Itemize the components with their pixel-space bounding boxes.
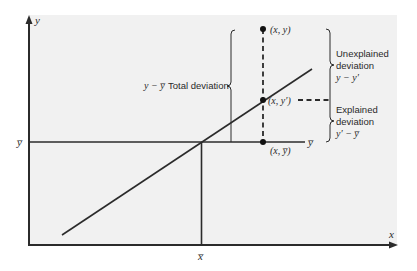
unexplained-deviation-formula: y − y′ [335, 72, 360, 83]
total-deviation-formula: y − y̅ [143, 80, 166, 91]
x-axis-label: x [388, 228, 394, 240]
explained-deviation-line1: Explained [336, 104, 378, 115]
explained-deviation-formula: y′ − y̅ [335, 128, 360, 139]
mean-point [260, 139, 266, 145]
regression-deviation-diagram: y x y̅ y̅ x̅ (x, y) (x, y′) (x, y̅) y − … [0, 0, 417, 271]
x-mean-label: x̅ [197, 250, 204, 262]
observed-point [260, 26, 266, 32]
y-axis-label: y [34, 14, 40, 26]
unexplained-deviation-line2: deviation [336, 60, 374, 71]
predicted-point-label: (x, y′) [268, 95, 291, 107]
mean-point-label: (x, y̅) [270, 145, 291, 157]
predicted-point [260, 97, 266, 103]
explained-deviation-line2: deviation [336, 116, 374, 127]
total-deviation-label: Total deviation [168, 80, 229, 91]
observed-point-label: (x, y) [270, 24, 291, 36]
y-mean-label-left: y̅ [16, 136, 23, 148]
unexplained-deviation-line1: Unexplained [336, 48, 389, 59]
